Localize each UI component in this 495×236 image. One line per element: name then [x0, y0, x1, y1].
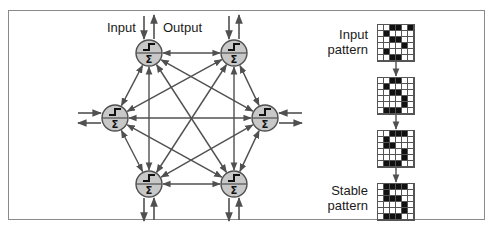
- pixel-on: [402, 155, 407, 160]
- stable-pattern-grid: [377, 183, 415, 221]
- input-pattern-label-line2: pattern: [318, 42, 368, 57]
- pixel-on: [396, 184, 401, 189]
- pixel-off: [384, 131, 389, 136]
- sum-icon: Σ: [146, 54, 153, 65]
- pixel-off: [408, 208, 413, 213]
- pixel-off: [402, 108, 407, 113]
- pixel-on: [396, 55, 401, 60]
- pixel-off: [402, 49, 407, 54]
- pixel-off: [396, 43, 401, 48]
- pixel-off: [378, 131, 383, 136]
- pixel-on: [408, 25, 413, 30]
- neuron-left: Σ: [102, 105, 128, 131]
- sum-icon: Σ: [112, 119, 119, 130]
- input-pattern-grid: [377, 24, 415, 62]
- pixel-on: [396, 161, 401, 166]
- pixel-on: [384, 31, 389, 36]
- pixel-on: [384, 184, 389, 189]
- pixel-on: [402, 96, 407, 101]
- pixel-on: [396, 108, 401, 113]
- pixel-on: [402, 149, 407, 154]
- pixel-off: [396, 143, 401, 148]
- pixel-off: [378, 202, 383, 207]
- pixel-on: [390, 184, 395, 189]
- output-label: Output: [163, 20, 202, 35]
- pixel-off: [408, 137, 413, 142]
- pixel-off: [390, 208, 395, 213]
- pixel-off: [378, 96, 383, 101]
- input-pattern-label: Input pattern: [318, 27, 368, 57]
- pixel-on: [390, 25, 395, 30]
- pixel-off: [390, 49, 395, 54]
- neuron-bottom-left: Σ: [136, 171, 162, 197]
- pixel-off: [378, 25, 383, 30]
- pixel-off: [396, 96, 401, 101]
- pixel-off: [408, 161, 413, 166]
- pixel-off: [378, 78, 383, 83]
- pixel-off: [408, 102, 413, 107]
- input-label: Input: [107, 20, 136, 35]
- pixel-on: [384, 190, 389, 195]
- pixel-off: [384, 102, 389, 107]
- pixel-off: [384, 202, 389, 207]
- pixel-off: [378, 155, 383, 160]
- pixel-off: [390, 190, 395, 195]
- pixel-off: [408, 184, 413, 189]
- network-connections: [121, 53, 259, 184]
- pixel-on: [390, 214, 395, 219]
- sum-icon: Σ: [146, 185, 153, 196]
- pixel-off: [408, 131, 413, 136]
- pixel-on: [390, 108, 395, 113]
- pixel-off: [408, 90, 413, 95]
- pixel-off: [402, 214, 407, 219]
- pixel-off: [408, 196, 413, 201]
- pixel-off: [384, 55, 389, 60]
- pixel-off: [384, 208, 389, 213]
- pixel-off: [396, 49, 401, 54]
- pixel-on: [402, 102, 407, 107]
- pixel-off: [408, 202, 413, 207]
- pixel-on: [396, 37, 401, 42]
- pixel-off: [408, 31, 413, 36]
- pixel-off: [390, 96, 395, 101]
- pixel-off: [378, 143, 383, 148]
- pixel-on: [396, 78, 401, 83]
- pixel-off: [384, 155, 389, 160]
- pixel-on: [390, 90, 395, 95]
- pixel-off: [402, 55, 407, 60]
- pixel-on: [402, 43, 407, 48]
- pixel-off: [396, 155, 401, 160]
- pixel-off: [402, 190, 407, 195]
- connection-top-left-left: [121, 65, 142, 105]
- pixel-on: [384, 137, 389, 142]
- pixel-off: [384, 78, 389, 83]
- pixel-off: [378, 161, 383, 166]
- pixel-off: [402, 37, 407, 42]
- pixel-off: [378, 90, 383, 95]
- pixel-off: [396, 149, 401, 154]
- neuron-top-right: Σ: [221, 40, 247, 66]
- pixel-off: [396, 31, 401, 36]
- pixel-off: [390, 202, 395, 207]
- pixel-off: [390, 149, 395, 154]
- stable-pattern-label: Stable pattern: [318, 183, 368, 213]
- pixel-on: [396, 90, 401, 95]
- pixel-off: [396, 208, 401, 213]
- pixel-off: [402, 196, 407, 201]
- pixel-off: [378, 55, 383, 60]
- pixel-off: [402, 161, 407, 166]
- pixel-off: [408, 43, 413, 48]
- pixel-on: [390, 78, 395, 83]
- neuron-bottom-right: Σ: [221, 171, 247, 197]
- pixel-on: [384, 196, 389, 201]
- pixel-off: [390, 102, 395, 107]
- pixel-off: [396, 102, 401, 107]
- intermediate-pattern-grid: [377, 130, 415, 168]
- stable-pattern-label-line2: pattern: [318, 198, 368, 213]
- pixel-off: [396, 202, 401, 207]
- pixel-off: [408, 37, 413, 42]
- pixel-off: [408, 55, 413, 60]
- neuron-top-left: Σ: [136, 40, 162, 66]
- pixel-off: [384, 149, 389, 154]
- pixel-off: [378, 102, 383, 107]
